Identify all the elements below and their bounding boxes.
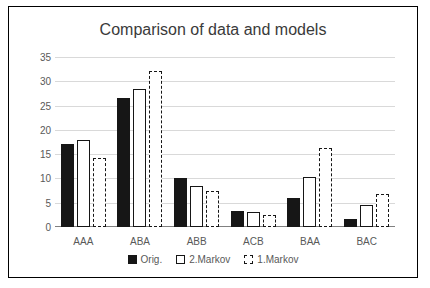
bar (287, 198, 300, 227)
legend-label: 1.Markov (257, 254, 298, 265)
legend-swatch-icon (176, 255, 185, 264)
bar (93, 158, 106, 227)
plot-area: AAAABAABBACBBAABAC (55, 57, 395, 227)
x-axis-tick-label: ABA (112, 236, 169, 247)
y-axis-tick-label: 0 (11, 222, 51, 233)
legend-item-1markov: 1.Markov (244, 254, 298, 265)
bar (206, 191, 219, 227)
bar (247, 212, 260, 227)
chart-container: Comparison of data and models 0510152025… (8, 6, 418, 278)
bar-group: ABB (168, 57, 225, 227)
bar-group: BAC (338, 57, 395, 227)
bar (133, 89, 146, 227)
bar (263, 215, 276, 227)
chart-title: Comparison of data and models (9, 21, 417, 39)
bar (149, 71, 162, 227)
y-axis-tick-label: 20 (11, 124, 51, 135)
legend-swatch-icon (244, 255, 253, 264)
bar (117, 98, 130, 227)
bar (231, 211, 244, 227)
bar (303, 177, 316, 227)
legend-label: Orig. (141, 254, 163, 265)
x-axis-tick-label: ACB (225, 236, 282, 247)
x-axis-tick-label: AAA (55, 236, 112, 247)
x-axis-tick-label: ABB (168, 236, 225, 247)
legend-swatch-icon (128, 255, 137, 264)
bar (190, 186, 203, 227)
legend-item-orig: Orig. (128, 254, 163, 265)
bar (360, 205, 373, 227)
bar-group: BAA (282, 57, 339, 227)
y-axis-tick-label: 5 (11, 197, 51, 208)
x-axis-tick-label: BAA (282, 236, 339, 247)
bar (319, 148, 332, 227)
y-axis-tick-label: 15 (11, 149, 51, 160)
y-axis-tick-label: 30 (11, 76, 51, 87)
chart-legend: Orig. 2.Markov 1.Markov (9, 254, 417, 265)
bar (376, 194, 389, 227)
x-axis-tick-label: BAC (338, 236, 395, 247)
y-axis-tick-label: 35 (11, 52, 51, 63)
bar (344, 219, 357, 227)
bar (77, 140, 90, 227)
y-axis-tick-label: 10 (11, 173, 51, 184)
bar (174, 178, 187, 227)
bar-group: AAA (55, 57, 112, 227)
legend-label: 2.Markov (189, 254, 230, 265)
y-axis-tick-label: 25 (11, 100, 51, 111)
y-axis-ticks: 05101520253035 (9, 57, 51, 227)
legend-item-2markov: 2.Markov (176, 254, 230, 265)
bar-group: ACB (225, 57, 282, 227)
bar (61, 144, 74, 227)
bar-group: ABA (112, 57, 169, 227)
